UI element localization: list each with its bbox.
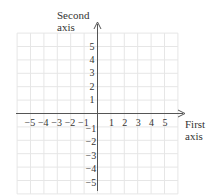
coordinate-plane [0, 0, 213, 196]
x-tick-label: 3 [136, 117, 141, 129]
y-axis-label-line2: axis [57, 21, 75, 33]
y-tick-label: 3 [90, 67, 95, 79]
x-axis-label-line1: First [185, 118, 205, 130]
y-tick-label: 5 [90, 41, 95, 53]
y-tick-label: −2 [86, 136, 97, 148]
x-tick-label: 2 [122, 117, 127, 129]
y-tick-label: −5 [86, 177, 97, 189]
y-axis-label-line1: Second [57, 9, 89, 21]
x-tick-label: −3 [51, 117, 62, 129]
y-tick-label: 4 [90, 54, 95, 66]
x-tick-label: 1 [109, 117, 114, 129]
y-tick-label: 1 [90, 94, 95, 106]
y-tick-label: −4 [86, 163, 97, 175]
x-tick-label: −5 [25, 117, 36, 129]
x-tick-label: 4 [149, 117, 154, 129]
y-tick-label: −3 [86, 150, 97, 162]
x-tick-label: −2 [65, 117, 76, 129]
y-tick-label: −1 [86, 123, 97, 135]
x-axis-label-line2: axis [185, 130, 203, 142]
x-tick-label: 5 [163, 117, 168, 129]
y-tick-label: 2 [90, 81, 95, 93]
x-tick-label: −4 [38, 117, 49, 129]
